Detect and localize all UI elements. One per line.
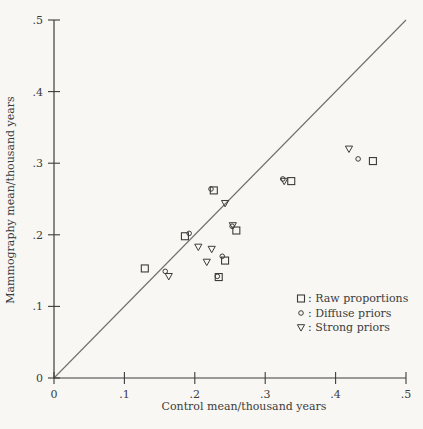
y-tick-label: .3: [33, 157, 44, 170]
y-tick-label: .2: [33, 229, 44, 242]
y-tick-label: .1: [33, 300, 44, 313]
x-tick-label: .5: [401, 388, 412, 401]
legend-label: : Diffuse priors: [308, 307, 392, 320]
x-tick-label: .4: [330, 388, 341, 401]
data-point-circle: [163, 269, 168, 274]
data-point-triangle-down: [203, 259, 210, 265]
y-tick-label: .4: [33, 86, 44, 99]
data-point-circle: [220, 254, 225, 259]
data-point-circle: [356, 157, 361, 162]
data-point-square: [288, 178, 295, 185]
y-axis-title: Mammography mean/thousand years: [4, 96, 17, 304]
y-tick-label: 0: [36, 372, 43, 385]
data-point-triangle-down: [208, 246, 215, 252]
data-point-triangle-down: [345, 146, 352, 152]
data-point-square: [141, 265, 148, 272]
legend-marker-circle: [299, 311, 304, 316]
data-point-triangle-down: [195, 244, 202, 250]
legend-marker-square: [298, 295, 305, 302]
y-tick-label: .5: [33, 14, 44, 27]
x-axis-title: Control mean/thousand years: [162, 400, 327, 413]
legend-label: : Raw proportions: [308, 292, 409, 305]
chart-canvas: 0.1.2.3.4.50.1.2.3.4.5: Raw proportions:…: [0, 0, 423, 429]
data-point-square: [369, 158, 376, 165]
data-point-circle: [187, 231, 192, 236]
data-point-triangle-down: [165, 274, 172, 280]
x-tick-label: .1: [119, 388, 130, 401]
legend-marker-triangle-down: [297, 325, 304, 331]
x-tick-label: 0: [51, 388, 58, 401]
data-point-square: [210, 187, 217, 194]
scatter-plot-figure: 0.1.2.3.4.50.1.2.3.4.5: Raw proportions:…: [0, 0, 423, 429]
legend-label: : Strong priors: [308, 321, 390, 334]
